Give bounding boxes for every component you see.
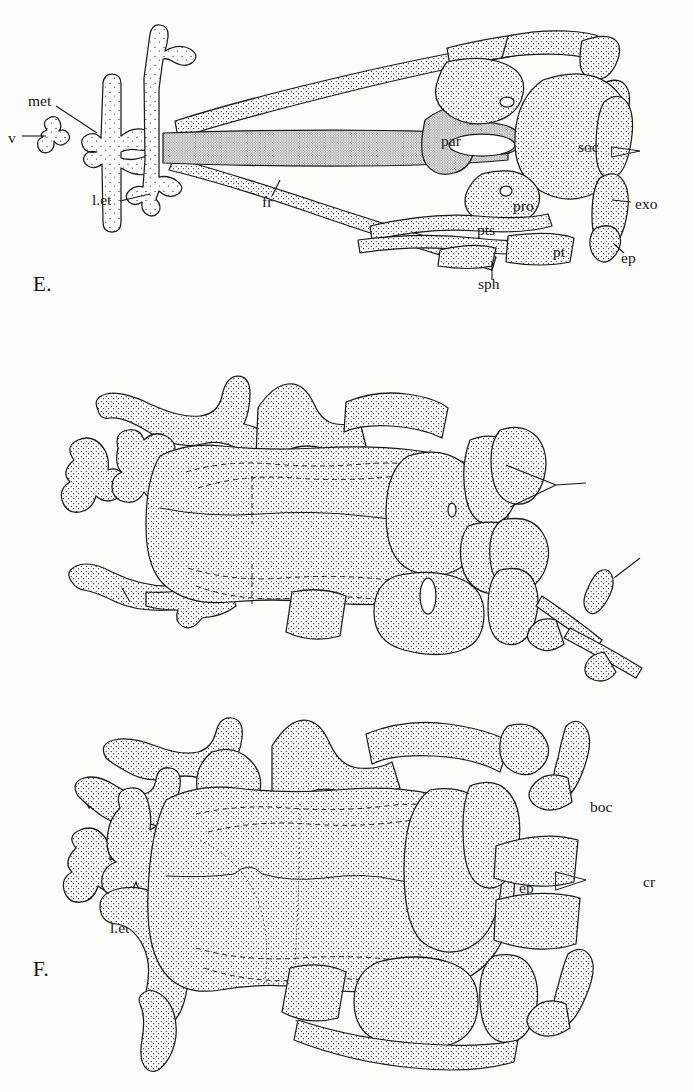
label-e-exo: exo (635, 196, 657, 212)
label-e-ep: ep (621, 250, 636, 266)
label-e-pro: pro (513, 198, 534, 214)
label-e-fr: fr (262, 194, 272, 210)
label-e-met: met (28, 93, 51, 109)
leader-f-boc (556, 483, 586, 485)
leader-met (56, 106, 97, 133)
panel-e: E. met v l.et fr par soc pro pts exo pt … (0, 0, 694, 320)
panel-g: G. l.et so n v met fr soc exo ep cr pt s… (0, 690, 694, 1092)
label-e-let: l.et (92, 192, 111, 208)
panel-f-drawing (0, 320, 694, 690)
label-e-par: par (441, 133, 461, 149)
leader-f-cr (614, 558, 640, 578)
label-e-sph: sph (478, 276, 500, 292)
label-e-pt: pt (553, 244, 565, 260)
label-e-soc: soc (578, 139, 599, 155)
panel-g-drawing (0, 690, 694, 1092)
panel-f: F. v met l.et fr soc boc exo ep cr pt sp… (0, 320, 694, 690)
panel-e-drawing (0, 0, 694, 320)
panel-letter-e: E. (33, 272, 52, 297)
label-e-pts: pts (477, 222, 495, 238)
label-e-v: v (8, 130, 16, 146)
figure-root: E. met v l.et fr par soc pro pts exo pt … (0, 0, 694, 1092)
